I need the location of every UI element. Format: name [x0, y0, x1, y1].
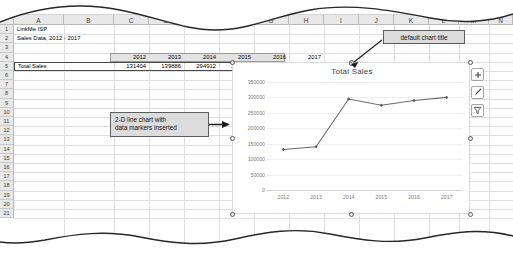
- row-header-5[interactable]: 5: [0, 62, 14, 71]
- row-header-16[interactable]: 16: [0, 163, 14, 172]
- chart-plot-area: 350000 300000 250000 200000 150000 10000…: [267, 82, 463, 190]
- column-header-e[interactable]: E: [184, 14, 219, 25]
- column-header-l[interactable]: L: [429, 14, 459, 25]
- cell-total-sales-label[interactable]: Total Sales: [16, 62, 108, 71]
- column-header-h[interactable]: H: [289, 14, 324, 25]
- cell-value-2012[interactable]: 131404: [110, 62, 149, 71]
- row-header-14[interactable]: 14: [0, 145, 14, 154]
- column-header-k[interactable]: K: [394, 14, 429, 25]
- x-tick-2013: 2013: [310, 194, 322, 200]
- series-line-total-sales: [283, 97, 446, 149]
- column-header-m[interactable]: M: [459, 14, 489, 25]
- column-header-j[interactable]: J: [359, 14, 394, 25]
- row-header-2[interactable]: 2: [0, 34, 14, 43]
- data-marker-2012: [282, 148, 285, 151]
- cell-year-2017[interactable]: 2017: [289, 53, 324, 62]
- y-tick-0: 0: [231, 187, 265, 193]
- row-header-9[interactable]: 9: [0, 99, 14, 108]
- cell-a2-subtitle[interactable]: Sales Data, 2012 - 2017: [15, 34, 145, 43]
- y-tick-250000: 250000: [231, 110, 265, 116]
- x-tick-2014: 2014: [343, 194, 355, 200]
- screenshot-root: A B C D E F G H I J K L M N 1 2 3 4 5 6 …: [0, 0, 513, 254]
- row-header-21[interactable]: 21: [0, 209, 14, 218]
- brush-icon: [473, 88, 482, 97]
- cell-value-2013[interactable]: 139886: [149, 62, 184, 71]
- chart-filters-button[interactable]: [471, 104, 484, 117]
- column-header-a[interactable]: A: [14, 14, 64, 25]
- callout-chart-type: 2-D line chart with data markers inserte…: [110, 112, 209, 137]
- row-header-12[interactable]: 12: [0, 126, 14, 135]
- x-tick-2012: 2012: [278, 194, 290, 200]
- column-header-d[interactable]: D: [149, 14, 184, 25]
- y-tick-150000: 150000: [231, 141, 265, 147]
- row-header-3[interactable]: 3: [0, 43, 14, 52]
- column-header-b[interactable]: B: [64, 14, 114, 25]
- row-header-13[interactable]: 13: [0, 135, 14, 144]
- chart-elements-button[interactable]: [471, 68, 484, 81]
- x-tick-2015: 2015: [376, 194, 388, 200]
- chart-object[interactable]: Total Sales 350000 300000 250000 200000 …: [232, 62, 470, 214]
- chart-x-axis-line: [267, 190, 463, 191]
- spreadsheet-sheet: A B C D E F G H I J K L M N 1 2 3 4 5 6 …: [0, 0, 513, 254]
- chart-handle-bottom-right[interactable]: [468, 212, 473, 217]
- row-header-1[interactable]: 1: [0, 25, 14, 34]
- cell-year-2013[interactable]: 2013: [149, 53, 184, 62]
- chart-title-selection-handle[interactable]: [349, 62, 353, 66]
- y-tick-200000: 200000: [231, 125, 265, 131]
- y-tick-50000: 50000: [231, 172, 265, 178]
- row-header-19[interactable]: 19: [0, 191, 14, 200]
- plus-icon: [474, 71, 482, 79]
- row-header-11[interactable]: 11: [0, 117, 14, 126]
- chart-handle-bottom-center[interactable]: [349, 212, 354, 217]
- callout-default-chart-title: default chart title: [383, 30, 465, 44]
- chart-handle-top-left[interactable]: [230, 60, 235, 65]
- chart-series: [267, 82, 463, 190]
- cell-year-2015[interactable]: 2015: [219, 53, 254, 62]
- data-marker-2016: [412, 99, 415, 102]
- chart-title[interactable]: Total Sales: [233, 67, 471, 76]
- column-header-row: A B C D E F G H I J K L M N: [0, 14, 513, 25]
- chart-handle-middle-right[interactable]: [468, 136, 473, 141]
- row-header-4[interactable]: 4: [0, 53, 14, 62]
- column-header-f[interactable]: F: [219, 14, 254, 25]
- cell-year-2016[interactable]: 2016: [254, 53, 289, 62]
- chart-handle-top-right[interactable]: [468, 60, 473, 65]
- cell-a1-title[interactable]: LinkMe ISP: [15, 25, 125, 34]
- row-header-7[interactable]: 7: [0, 80, 14, 89]
- chart-handle-middle-left[interactable]: [230, 136, 235, 141]
- chart-styles-button[interactable]: [471, 86, 484, 99]
- column-header-g[interactable]: G: [254, 14, 289, 25]
- filter-icon: [473, 106, 482, 115]
- row-header-15[interactable]: 15: [0, 154, 14, 163]
- x-tick-2016: 2016: [408, 194, 420, 200]
- row-header-6[interactable]: 6: [0, 71, 14, 80]
- y-tick-350000: 350000: [231, 79, 265, 85]
- row-header-20[interactable]: 20: [0, 200, 14, 209]
- y-tick-100000: 100000: [231, 156, 265, 162]
- column-header-n[interactable]: N: [489, 14, 513, 25]
- row-header-10[interactable]: 10: [0, 108, 14, 117]
- data-marker-2015: [380, 103, 383, 106]
- y-tick-300000: 300000: [231, 94, 265, 100]
- column-header-c[interactable]: C: [114, 14, 149, 25]
- data-marker-2017: [445, 96, 448, 99]
- row-header-18[interactable]: 18: [0, 181, 14, 190]
- cell-year-2014[interactable]: 2014: [184, 53, 219, 62]
- row-header-8[interactable]: 8: [0, 89, 14, 98]
- cell-value-2014[interactable]: 294912: [184, 62, 219, 71]
- row-header-17[interactable]: 17: [0, 172, 14, 181]
- column-header-i[interactable]: I: [324, 14, 359, 25]
- chart-handle-bottom-left[interactable]: [230, 212, 235, 217]
- x-tick-2017: 2017: [441, 194, 453, 200]
- cell-year-2012[interactable]: 2012: [110, 53, 149, 62]
